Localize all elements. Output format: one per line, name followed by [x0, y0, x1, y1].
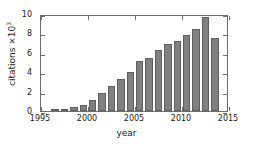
- y-axis-tick-label: 6: [27, 50, 32, 58]
- bar: [61, 109, 68, 111]
- y-axis-tick-right: [223, 74, 227, 75]
- y-axis-tick-label: 2: [27, 89, 32, 97]
- bar: [164, 44, 171, 111]
- x-axis-tick-top: [182, 16, 183, 20]
- x-axis-tick-label: 1995: [30, 114, 50, 123]
- y-axis-tick: [41, 94, 45, 95]
- x-axis-tick: [88, 107, 89, 111]
- x-axis-tick-top: [41, 16, 42, 20]
- bar: [80, 105, 87, 111]
- y-axis-tick: [41, 74, 45, 75]
- x-axis-tick-top: [229, 16, 230, 20]
- bar: [145, 58, 152, 111]
- y-axis-tick-label: 10: [22, 11, 32, 19]
- bar: [183, 35, 190, 111]
- y-axis-tick-right: [223, 16, 227, 17]
- x-axis-tick: [41, 107, 42, 111]
- bar: [98, 93, 105, 111]
- plot-area: [40, 15, 228, 112]
- y-axis-tick-right: [223, 35, 227, 36]
- bar: [211, 38, 218, 111]
- bar: [51, 109, 58, 111]
- x-axis-tick-top: [88, 16, 89, 20]
- bar-series: [41, 16, 227, 111]
- bar: [89, 100, 96, 111]
- y-axis-tick: [41, 55, 45, 56]
- x-axis-tick-label: 2010: [171, 114, 191, 123]
- x-axis-tick-label: 2005: [124, 114, 144, 123]
- y-axis-tick-right: [223, 94, 227, 95]
- bar: [174, 41, 181, 111]
- bar: [136, 61, 143, 111]
- bar: [192, 29, 199, 111]
- bar: [202, 17, 209, 111]
- x-axis-tick-top: [135, 16, 136, 20]
- bar: [108, 86, 115, 111]
- y-axis-tick-label: 4: [27, 69, 32, 77]
- bar: [70, 107, 77, 111]
- y-axis-tick-right: [223, 55, 227, 56]
- x-axis-tick-label: 2000: [77, 114, 97, 123]
- x-axis-tick-label: 2015: [218, 114, 238, 123]
- bar: [117, 79, 124, 111]
- x-axis-tick: [135, 107, 136, 111]
- x-axis-tick-labels: 19952000200520102015: [0, 114, 253, 126]
- x-axis-title: year: [0, 128, 253, 138]
- y-axis-tick-labels: 0246810: [0, 15, 36, 112]
- x-axis-tick: [182, 107, 183, 111]
- x-axis-tick: [229, 107, 230, 111]
- y-axis-tick-label: 8: [27, 30, 32, 38]
- bar: [155, 50, 162, 111]
- citation-bar-chart: citations ×103 0246810 19952000200520102…: [0, 0, 253, 145]
- y-axis-tick: [41, 35, 45, 36]
- bar: [127, 72, 134, 111]
